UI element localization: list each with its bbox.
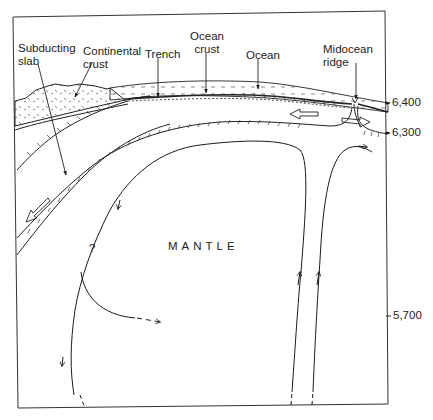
lithosphere-plates bbox=[15, 93, 388, 255]
ocean-layer bbox=[110, 81, 388, 112]
label-mantle: MANTLE bbox=[168, 240, 239, 252]
label-subducting-slab: Subducting slab bbox=[18, 42, 76, 68]
radius-tick-5700: 5,700 bbox=[393, 309, 422, 321]
label-question-mark: ? bbox=[89, 242, 95, 255]
convection-flows bbox=[62, 141, 372, 408]
mantle-convection-diagram: Subducting slab Continental crust Trench… bbox=[0, 0, 433, 420]
label-continental-crust: Continental crust bbox=[83, 45, 141, 71]
label-ocean-crust: Ocean crust bbox=[190, 30, 224, 56]
label-trench: Trench bbox=[145, 48, 180, 61]
radius-tick-6300: 6,300 bbox=[392, 126, 421, 138]
label-midocean-ridge: Midocean ridge bbox=[323, 43, 373, 69]
radius-tick-6400: 6,400 bbox=[392, 96, 421, 108]
left-plate-motion-arrow bbox=[290, 109, 318, 119]
left-convection-cell bbox=[71, 141, 306, 395]
diagram-frame bbox=[13, 11, 388, 408]
label-ocean: Ocean bbox=[246, 49, 280, 62]
right-plate-motion-arrow bbox=[342, 117, 370, 127]
plate-motion-arrows bbox=[26, 109, 370, 222]
label-leaders bbox=[38, 53, 356, 175]
